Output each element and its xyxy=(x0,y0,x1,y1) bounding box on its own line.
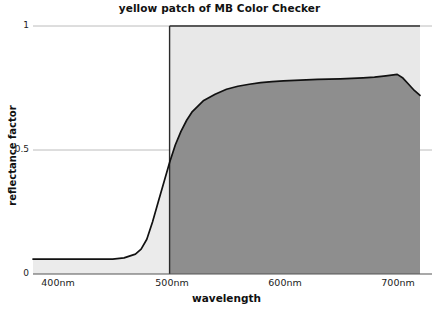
left-region-fill xyxy=(33,162,170,274)
chart-figure: yellow patch of MB Color Checker reflect… xyxy=(0,0,439,313)
band-fill-below-curve xyxy=(170,74,420,274)
plot-canvas xyxy=(0,0,439,313)
